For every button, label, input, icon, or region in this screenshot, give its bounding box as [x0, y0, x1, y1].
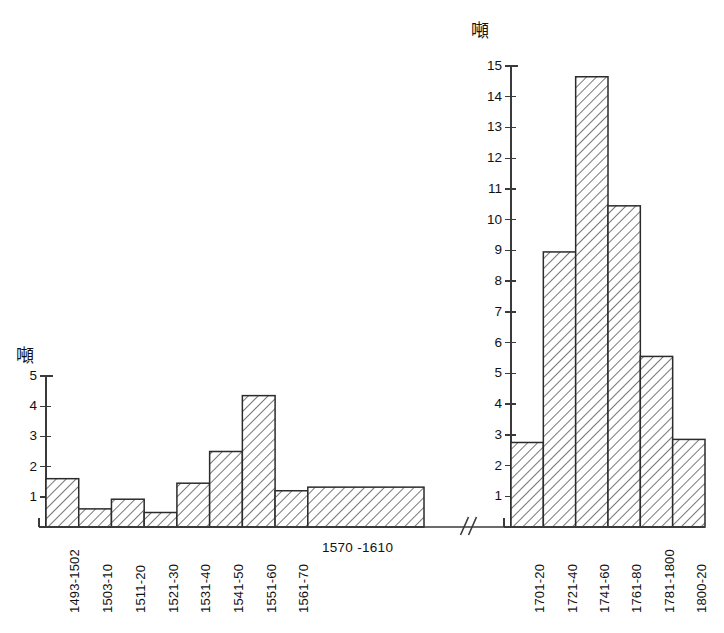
right-chart-y-tick-13: 13: [471, 120, 502, 134]
right-chart-bar-5: [673, 439, 705, 527]
left-chart-y-tick-3: 3: [6, 429, 37, 443]
right-chart-y-tick-11: 11: [471, 182, 502, 196]
left-chart-x-tick-6: 1551-60: [265, 564, 278, 613]
right-chart-x-tick-0: 1701-20: [533, 564, 546, 613]
right-chart-bar-0: [511, 442, 543, 527]
left-chart-bar-7: [275, 491, 308, 527]
right-chart-y-tick-8: 8: [471, 274, 502, 288]
left-chart-bar-1: [79, 509, 112, 527]
left-chart-y-tick-5: 5: [6, 369, 37, 383]
left-chart-bar-8: [308, 487, 424, 527]
left-chart-x-tick-8: 1570 -1610: [322, 541, 393, 555]
left-chart-panel: 噸 12345 1493-15021503-101511-201521-3015…: [0, 0, 455, 633]
right-chart-panel: 噸 123456789101112131415 1701-201721-4017…: [455, 0, 724, 633]
right-chart-bar-1: [543, 252, 575, 527]
right-chart-x-tick-2: 1741-60: [598, 564, 611, 613]
left-chart-bar-4: [177, 483, 210, 527]
right-chart-y-tick-14: 14: [471, 90, 502, 104]
left-chart-x-tick-3: 1521-30: [167, 564, 180, 613]
right-chart-y-tick-9: 9: [471, 243, 502, 257]
left-chart-bar-0: [46, 479, 79, 527]
left-chart-x-tick-2: 1511-20: [134, 565, 147, 613]
right-chart-y-tick-6: 6: [471, 336, 502, 350]
left-chart-y-tick-4: 4: [6, 399, 37, 413]
left-chart-y-tick-2: 2: [6, 460, 37, 474]
right-chart-y-tick-2: 2: [471, 459, 502, 473]
figure-root: 噸 12345 1493-15021503-101511-201521-3015…: [0, 0, 724, 633]
left-chart-x-tick-4: 1531-40: [199, 564, 212, 613]
left-chart-y-tick-1: 1: [6, 490, 37, 504]
right-chart-y-tick-1: 1: [471, 489, 502, 503]
right-chart-y-tick-10: 10: [471, 213, 502, 227]
right-chart-y-tick-4: 4: [471, 397, 502, 411]
left-chart-plot: [0, 0, 455, 633]
left-chart-bar-6: [242, 396, 275, 527]
right-chart-y-tick-7: 7: [471, 305, 502, 319]
right-chart-bar-2: [576, 77, 608, 527]
left-chart-x-tick-1: 1503-10: [101, 564, 114, 613]
right-chart-y-tick-5: 5: [471, 366, 502, 380]
left-chart-x-tick-7: 1561-70: [297, 564, 310, 613]
left-chart-bar-3: [144, 513, 177, 527]
left-chart-x-tick-5: 1541-50: [232, 564, 245, 613]
right-chart-x-tick-4: 1781-1800: [663, 549, 676, 613]
right-chart-y-tick-15: 15: [471, 59, 502, 73]
left-chart-bar-5: [210, 452, 243, 528]
left-chart-bar-2: [111, 499, 144, 527]
right-chart-y-tick-3: 3: [471, 428, 502, 442]
right-chart-x-tick-3: 1761-80: [630, 564, 643, 613]
right-chart-bar-3: [608, 206, 640, 527]
right-chart-bar-4: [640, 356, 672, 527]
right-chart-y-tick-12: 12: [471, 151, 502, 165]
right-chart-x-tick-1: 1721-40: [566, 564, 579, 613]
right-chart-x-tick-5: 1800-20: [695, 564, 708, 613]
left-chart-x-tick-0: 1493-1502: [68, 549, 81, 613]
